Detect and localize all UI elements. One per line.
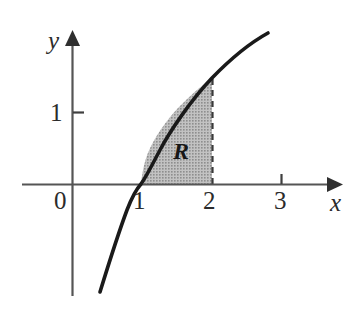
y-axis-label: y <box>48 28 59 53</box>
y-axis-tick-label-1: 1 <box>50 100 63 125</box>
x-axis-tick-label-0: 0 <box>54 188 67 213</box>
shaded-region-label: R <box>173 139 189 163</box>
x-axis-tick-label-2: 2 <box>203 188 216 213</box>
figure-canvas: 0 1 2 3 1 x y R <box>0 0 358 309</box>
x-axis-tick-label-1: 1 <box>133 188 146 213</box>
x-axis-label: x <box>330 190 341 215</box>
y-axis-arrowhead <box>65 30 80 46</box>
x-axis-tick-label-3: 3 <box>274 188 287 213</box>
